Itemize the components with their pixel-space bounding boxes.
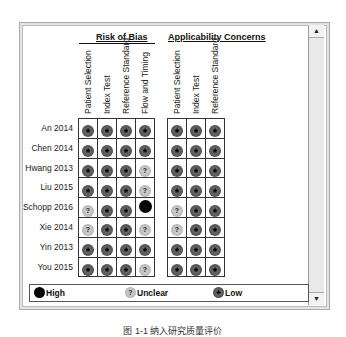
low-risk-dot-icon: + [190,205,202,217]
table-row: +++ [168,178,225,198]
rating-cell: + [79,158,98,178]
low-risk-dot-icon: + [82,244,94,256]
legend-unclear: ? Unclear [125,287,168,298]
rating-cell: + [206,237,225,257]
rating-cell: + [117,257,136,277]
column-header-label: Patient Selection [172,50,182,114]
unclear-risk-dot-icon: ? [125,287,136,298]
study-label: You 2015 [20,262,73,272]
low-risk-dot-icon: + [213,287,224,298]
rating-cell: + [187,119,206,139]
low-risk-dot-icon: + [101,125,113,137]
rating-cell: + [98,217,117,237]
low-risk-dot-icon: + [171,185,183,197]
scroll-down-arrow-icon[interactable]: ▼ [309,292,324,305]
rating-cell: ? [136,158,155,178]
low-risk-dot-icon: + [190,264,202,276]
study-label: Yin 2013 [20,242,73,252]
legend-high: High [34,287,65,298]
low-risk-dot-icon: + [101,205,113,217]
low-risk-dot-icon: + [209,125,221,137]
rating-cell: ? [168,217,187,237]
unclear-risk-dot-icon: ? [171,224,183,236]
column-header-label: Reference Standard [210,38,220,114]
rating-cell: ? [136,217,155,237]
table-row: +++ [168,138,225,158]
column-header-label: Reference Standard [121,38,131,114]
rating-cell: + [98,138,117,158]
rating-cell: ? [136,178,155,198]
rating-cell: + [117,138,136,158]
table-row: +++? [79,178,155,198]
low-risk-dot-icon: + [120,125,132,137]
legend-low-label: Low [225,288,242,298]
scroll-up-arrow-icon[interactable]: ▲ [309,25,324,38]
low-risk-dot-icon: + [101,145,113,157]
column-header-label: Index Test [102,75,112,114]
low-risk-dot-icon: + [82,185,94,197]
rating-cell: ? [136,257,155,277]
low-risk-dot-icon: + [171,165,183,177]
low-risk-dot-icon: + [120,205,132,217]
low-risk-dot-icon: + [101,224,113,236]
rating-cell: + [117,217,136,237]
table-row: +++? [79,257,155,277]
low-risk-dot-icon: + [190,224,202,236]
table-row: +++ [168,257,225,277]
legend-low: + Low [213,287,242,298]
column-header: Reference Standard [205,48,224,114]
low-risk-dot-icon: + [120,224,132,236]
unclear-risk-dot-icon: ? [139,185,151,197]
legend-unclear-label: Unclear [137,288,168,298]
low-risk-dot-icon: + [171,244,183,256]
table-row: +++ [168,119,225,139]
low-risk-dot-icon: + [139,145,151,157]
low-risk-dot-icon: + [190,244,202,256]
rating-cell: + [187,217,206,237]
low-risk-dot-icon: + [209,264,221,276]
low-risk-dot-icon: + [209,165,221,177]
table-row: +++ [168,158,225,178]
rating-cell: + [168,138,187,158]
column-header: Index Test [97,48,116,114]
rating-cell: + [168,178,187,198]
table-row: ?++? [79,217,155,237]
low-risk-dot-icon: + [120,185,132,197]
rating-cell: + [187,178,206,198]
applicability-grid: ++++++++++++?++?++++++++ [167,118,225,277]
low-risk-dot-icon: + [171,125,183,137]
rating-cell: + [168,257,187,277]
column-header: Patient Selection [167,48,186,114]
vertical-scrollbar[interactable]: ▲ ▼ [308,25,324,305]
column-header: Flow and Timing [135,48,154,114]
rating-cell: + [79,178,98,198]
low-risk-dot-icon: + [82,145,94,157]
low-risk-dot-icon: + [120,165,132,177]
study-label: Chen 2014 [20,143,73,153]
rating-cell: + [98,237,117,257]
low-risk-dot-icon: + [101,264,113,276]
rating-cell: + [79,119,98,139]
rating-cell: + [79,257,98,277]
rating-cell: + [117,237,136,257]
low-risk-dot-icon: + [101,185,113,197]
rating-cell: + [98,198,117,218]
study-label: Liu 2015 [20,182,73,192]
table-row: ?++ [168,217,225,237]
rating-cell: + [206,158,225,178]
table-row: ++++ [79,119,155,139]
low-risk-dot-icon: + [209,224,221,236]
study-label: Schopp 2016 [20,202,73,212]
rating-cell: + [206,198,225,218]
low-risk-dot-icon: + [190,125,202,137]
low-risk-dot-icon: + [120,264,132,276]
rating-cell: + [187,138,206,158]
low-risk-dot-icon: + [82,125,94,137]
rating-cell: + [168,119,187,139]
column-header: Index Test [186,48,205,114]
rating-cell: + [79,138,98,158]
risk-of-bias-grid: +++++++++++?+++??++?++?+++++++? [78,118,155,277]
low-risk-dot-icon: + [120,244,132,256]
rating-cell: + [206,138,225,158]
rating-cell: + [187,158,206,178]
